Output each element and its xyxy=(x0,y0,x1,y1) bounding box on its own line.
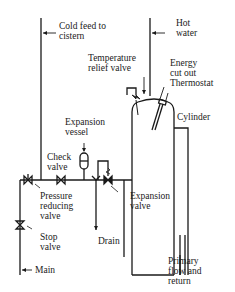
drain-pipe xyxy=(92,176,100,230)
thermostat-icon xyxy=(152,87,168,130)
pressure-reducing-valve-label: Pressure reducing valve xyxy=(40,191,73,221)
plumbing-diagram xyxy=(0,0,235,292)
primary-coil-box xyxy=(174,128,188,275)
thermostat-label: Thermostat xyxy=(170,78,213,88)
expansion-vessel-icon xyxy=(80,143,88,180)
expansion-valve-icon xyxy=(98,161,118,192)
main-label: Main xyxy=(35,265,55,275)
primary-flow-return-label: Primary flow and return xyxy=(168,256,202,286)
hot-water-arrow-icon xyxy=(152,31,165,35)
cylinder-label: Cylinder xyxy=(177,112,210,122)
main-arrow-icon xyxy=(22,268,32,272)
stop-valve-icon xyxy=(16,221,32,229)
expansion-vessel-label: Expansion vessel xyxy=(65,117,105,137)
stop-valve-label: Stop valve xyxy=(40,232,61,252)
temperature-relief-valve-label: Temperature relief valve xyxy=(88,53,136,73)
expansion-valve-label: Expansion valve xyxy=(130,191,170,211)
energy-cutout-label: Energy cut out xyxy=(170,58,197,78)
cold-feed-label: Cold feed to cistern xyxy=(59,21,106,41)
cold-feed-arrow-icon xyxy=(43,31,56,35)
temperature-relief-valve-icon xyxy=(127,77,146,115)
check-valve-label: Check valve xyxy=(47,152,71,172)
hot-water-label: Hot water xyxy=(176,18,197,38)
pressure-reducing-valve-icon xyxy=(24,174,40,188)
drain-label: Drain xyxy=(98,236,120,246)
